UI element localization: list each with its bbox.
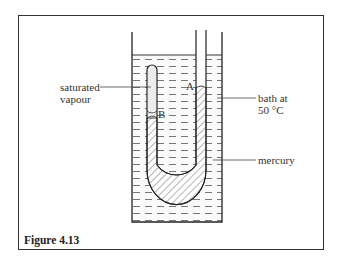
vapour-region <box>148 66 156 111</box>
label-point-b: B <box>158 108 165 120</box>
label-saturated-vapour-1: saturated <box>60 81 100 93</box>
label-saturated-vapour-2: vapour <box>60 93 91 105</box>
label-mercury: mercury <box>258 154 295 166</box>
u-tube-diagram <box>0 0 343 270</box>
label-bath-2: 50 °C <box>258 104 284 116</box>
label-point-a: A <box>186 80 194 92</box>
figure-caption: Figure 4.13 <box>24 234 79 246</box>
label-bath-1: bath at <box>258 92 288 104</box>
